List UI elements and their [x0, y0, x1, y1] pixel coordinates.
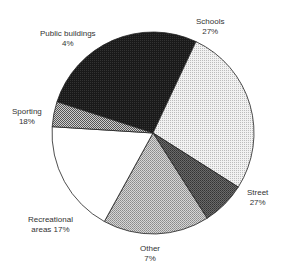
- label-other-value: 7%: [140, 254, 160, 264]
- label-sporting-name: Sporting: [12, 107, 42, 117]
- label-schools-value: 27%: [196, 27, 224, 37]
- label-sporting-value: 18%: [12, 117, 42, 127]
- label-recreational-value: areas 17%: [28, 225, 73, 235]
- label-public-name: Public buildings: [40, 29, 96, 39]
- label-street-name: Street: [247, 188, 268, 198]
- label-street-value: 27%: [247, 198, 268, 208]
- label-public-buildings: Public buildings 4%: [40, 29, 96, 49]
- label-other: Other 7%: [140, 244, 160, 264]
- label-other-name: Other: [140, 244, 160, 254]
- label-recreational: Recreational areas 17%: [28, 215, 73, 235]
- label-public-value: 4%: [40, 39, 96, 49]
- label-recreational-name: Recreational: [28, 215, 73, 225]
- label-schools: Schools 27%: [196, 17, 224, 37]
- label-sporting: Sporting 18%: [12, 107, 42, 127]
- label-street: Street 27%: [247, 188, 268, 208]
- label-schools-name: Schools: [196, 17, 224, 27]
